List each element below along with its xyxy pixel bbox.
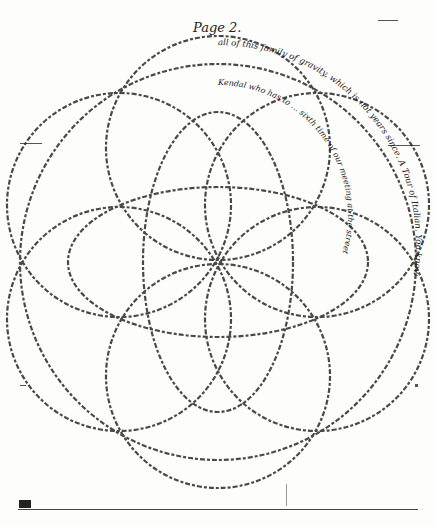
document-page: Page 2. all of this family of gravity, w… — [0, 0, 436, 526]
outer-circle-text: all of this family of gravity, which is … — [218, 37, 424, 277]
inner-arc-text: Kendal who has to ... sixth time of our … — [217, 78, 355, 256]
handwriting-rosette: all of this family of gravity, which is … — [0, 0, 436, 526]
